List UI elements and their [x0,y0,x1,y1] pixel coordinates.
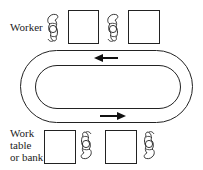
arrow-left-icon [94,54,118,62]
assembly-line-diagram [0,0,203,170]
worker-icon [144,132,154,159]
worker-icon [108,14,118,41]
conveyor-inner-edge [36,66,181,109]
work-table [69,11,99,44]
work-table [129,11,160,44]
worker-icon [81,132,91,159]
arrow-right-icon [100,112,126,120]
work-table [106,131,137,164]
work-table [45,131,76,164]
worker-icon [48,14,58,41]
conveyor-outer-edge [21,51,193,123]
